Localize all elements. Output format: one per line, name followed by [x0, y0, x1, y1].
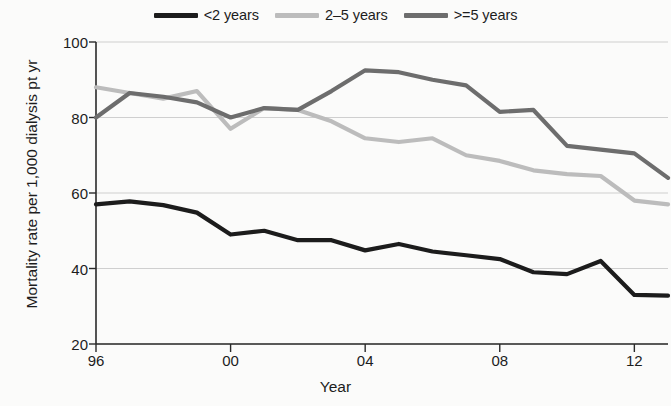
- y-tick-label: 60: [46, 185, 88, 202]
- y-axis-tick-labels: 20406080100: [40, 0, 88, 406]
- y-tick-label: 20: [46, 336, 88, 353]
- x-axis-title: Year: [0, 378, 671, 396]
- axis-ticks: [89, 42, 634, 352]
- y-axis-title: Mortality rate per 1,000 dialysis pt yr: [23, 34, 41, 334]
- gridlines: [96, 42, 668, 344]
- plot-area: [0, 0, 671, 406]
- series-line-0: [96, 201, 668, 295]
- x-tick-label: 04: [335, 352, 395, 369]
- y-tick-label: 100: [46, 34, 88, 51]
- series-line-2: [96, 70, 668, 178]
- y-tick-label: 40: [46, 260, 88, 277]
- x-tick-label: 08: [470, 352, 530, 369]
- x-tick-label: 96: [66, 352, 126, 369]
- data-series-group: [96, 70, 668, 295]
- y-tick-label: 80: [46, 109, 88, 126]
- chart-figure: <2 years 2–5 years >=5 years 20406080100…: [0, 0, 671, 406]
- x-tick-label: 12: [604, 352, 664, 369]
- x-tick-label: 00: [201, 352, 261, 369]
